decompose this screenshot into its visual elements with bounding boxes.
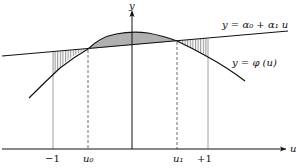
line-label: y = α₀ + α₁ u bbox=[221, 19, 288, 30]
tick-label-u0: u₀ bbox=[83, 153, 93, 164]
diagram-canvas: y u y = α₀ + α₁ u y = φ (u) −1 u₀ u₁ +1 bbox=[0, 0, 296, 168]
x-axis-label: u bbox=[290, 143, 296, 154]
curve-label: y = φ (u) bbox=[231, 57, 277, 68]
y-axis-label: y bbox=[128, 0, 135, 11]
hatched-region-left bbox=[53, 49, 88, 75]
tick-label-plus-one: +1 bbox=[197, 153, 212, 164]
tick-label-minus-one: −1 bbox=[45, 153, 60, 164]
tick-label-u1: u₁ bbox=[173, 153, 183, 164]
